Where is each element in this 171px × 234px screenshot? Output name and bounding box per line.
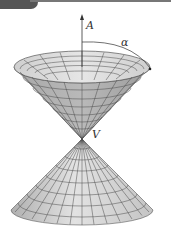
double-cone-diagram bbox=[0, 0, 171, 234]
angle-label: α bbox=[121, 37, 128, 48]
vertex-label: V bbox=[92, 129, 100, 140]
axis-label: A bbox=[86, 20, 94, 31]
lower-nappe bbox=[11, 139, 153, 225]
